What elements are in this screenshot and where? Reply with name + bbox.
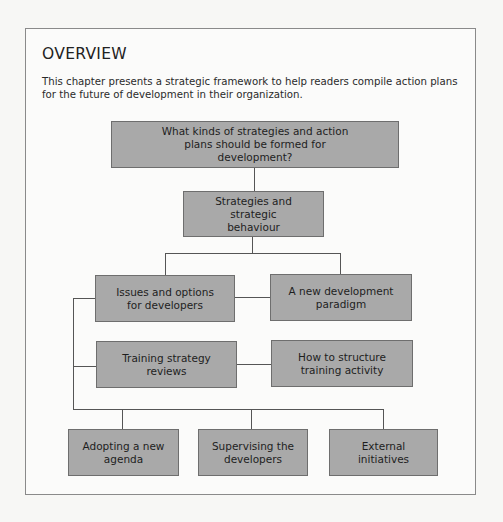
- node-external: External initiatives: [329, 429, 438, 476]
- connector-root-strategies: [254, 167, 255, 191]
- connector-branch-top: [165, 253, 341, 254]
- node-structure-training: How to structure training activity: [271, 340, 413, 387]
- connector-strategies-down: [252, 236, 253, 253]
- connector-reviews-structure: [236, 364, 271, 365]
- connector-branch-bottom: [73, 409, 384, 410]
- node-issues-options: Issues and options for developers: [95, 275, 235, 322]
- node-strategies: Strategies and strategic behaviour: [183, 191, 324, 237]
- overview-title: OVERVIEW: [42, 45, 127, 63]
- overview-intro: This chapter presents a strategic framew…: [42, 75, 472, 101]
- node-root-question: What kinds of strategies and action plan…: [111, 121, 399, 168]
- connector-to-paradigm: [340, 253, 341, 274]
- connector-to-external: [383, 409, 384, 429]
- node-training-reviews: Training strategy reviews: [96, 341, 237, 388]
- connector-left-spine: [73, 298, 74, 409]
- connector-to-supervising: [251, 409, 252, 429]
- connector-reviews-left: [73, 366, 96, 367]
- node-new-agenda: Adopting a new agenda: [68, 429, 179, 476]
- connector-issues-left: [73, 298, 95, 299]
- node-new-paradigm: A new development paradigm: [270, 274, 412, 321]
- connector-issues-paradigm: [234, 297, 270, 298]
- connector-to-issues: [165, 253, 166, 275]
- node-supervising: Supervising the developers: [198, 429, 308, 476]
- connector-to-agenda: [122, 409, 123, 429]
